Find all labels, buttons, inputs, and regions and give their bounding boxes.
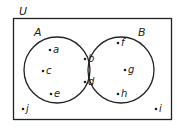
svg-text:e: e — [54, 88, 60, 99]
universe-label: U — [19, 5, 27, 18]
svg-text:a: a — [53, 44, 59, 55]
element-g: g — [124, 64, 135, 75]
element-i: i — [155, 103, 162, 114]
svg-text:i: i — [159, 103, 162, 114]
element-j: j — [22, 103, 29, 114]
svg-text:h: h — [121, 88, 127, 99]
svg-text:b: b — [88, 53, 94, 64]
element-d: d — [84, 76, 95, 87]
element-a: a — [49, 44, 59, 55]
element-e: e — [50, 88, 60, 99]
element-f: f — [117, 37, 126, 48]
svg-text:g: g — [128, 64, 134, 75]
svg-text:f: f — [121, 37, 126, 48]
element-c: c — [42, 65, 52, 76]
venn-diagram: U A B a c e b d f g h j i — [0, 0, 177, 131]
set-b-label: B — [138, 26, 146, 39]
set-a-label: A — [33, 26, 42, 39]
svg-text:c: c — [46, 65, 52, 76]
element-b: b — [84, 53, 95, 64]
svg-text:j: j — [24, 103, 29, 114]
svg-text:d: d — [88, 76, 95, 87]
element-h: h — [117, 88, 128, 99]
